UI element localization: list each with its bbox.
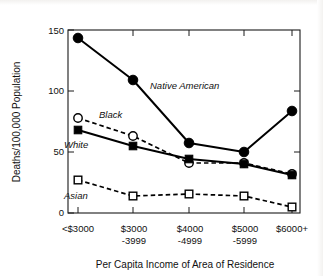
- x-axis-title: Per Capita Income of Area of Residence: [96, 259, 275, 270]
- series-white-point-3: [240, 160, 248, 168]
- series-asian-point-3: [240, 192, 248, 200]
- x-tick-label-1-top: $3000: [121, 223, 147, 234]
- series-asian-point-4: [288, 203, 296, 211]
- series-asian-point-1: [129, 192, 137, 200]
- x-tick-label-2-top: $4000: [177, 223, 203, 234]
- x-tick-label-2-bottom: -4999: [178, 235, 202, 246]
- series-white-point-4: [288, 171, 296, 179]
- y-axis-tick-labels: 0 50 100 150: [48, 25, 64, 218]
- series-black-point-1: [129, 132, 137, 140]
- x-axis-tick-labels: <$3000 $3000 -3999 $4000 -4999 $5000 -59…: [62, 223, 308, 246]
- series-asian: [74, 176, 296, 211]
- x-tick-label-1-bottom: -3999: [122, 235, 146, 246]
- y-tick-label-0: 0: [59, 207, 64, 218]
- series-label-native-american: Native American: [150, 80, 219, 91]
- x-tick-label-3-bottom: -5999: [233, 235, 257, 246]
- x-tick-label-3-top: $5000: [232, 223, 258, 234]
- y-axis-title: Deaths/100,000 Population: [11, 62, 22, 183]
- scan-artifact-top: [0, 0, 323, 5]
- series-native-american-point-4: [287, 106, 297, 116]
- line-chart: 0 50 100 150 <$3000 $3000 -3999 $4000 -4…: [0, 0, 323, 276]
- series-white-point-2: [185, 155, 193, 163]
- series-white-point-1: [129, 142, 137, 150]
- series-native-american-point-0: [73, 33, 83, 43]
- series-white-line: [78, 130, 292, 175]
- x-tick-label-0-top: <$3000: [62, 223, 94, 234]
- series-white-point-0: [74, 126, 82, 134]
- series-white: [74, 126, 296, 179]
- series-black-point-0: [74, 114, 82, 122]
- series-label-white: White: [64, 139, 88, 150]
- series-native-american-point-3: [239, 147, 249, 157]
- series-label-black: Black: [99, 109, 123, 120]
- x-tick-label-4-top: $6000+: [276, 223, 308, 234]
- series-native-american-point-1: [128, 75, 138, 85]
- figure-canvas: 0 50 100 150 <$3000 $3000 -3999 $4000 -4…: [0, 0, 323, 276]
- series-native-american-line: [78, 38, 292, 152]
- x-axis-ticks: [78, 30, 292, 213]
- series-asian-point-0: [74, 176, 82, 184]
- y-tick-label-150: 150: [48, 25, 64, 36]
- y-tick-label-50: 50: [53, 146, 64, 157]
- series-asian-point-2: [185, 190, 193, 198]
- series-native-american-point-2: [184, 138, 194, 148]
- scan-artifact-right: [317, 0, 323, 276]
- y-tick-label-100: 100: [48, 85, 64, 96]
- series-label-asian: Asian: [63, 190, 88, 201]
